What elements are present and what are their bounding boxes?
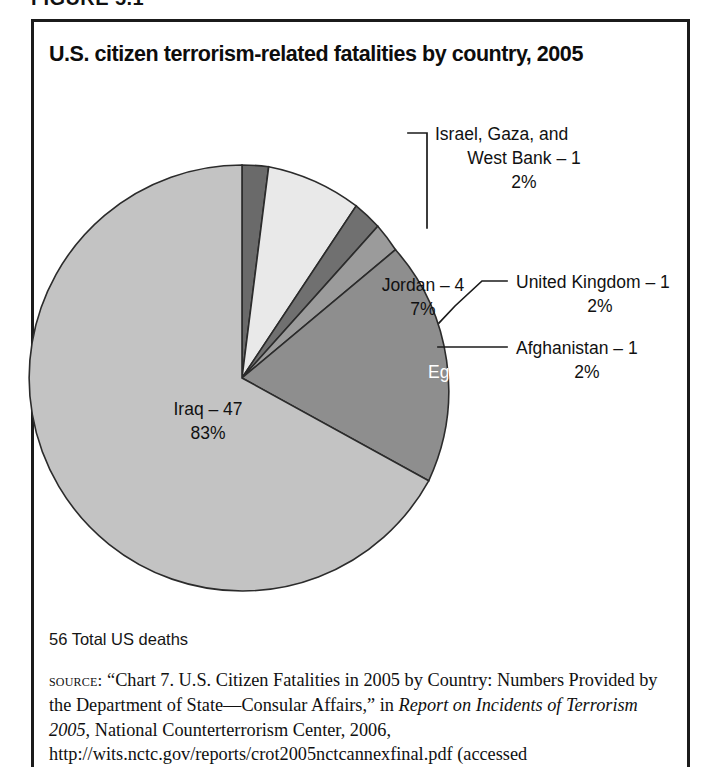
source-note: source: “Chart 7. U.S. Citizen Fatalitie… (49, 668, 666, 767)
label-egypt-percent: 4% (452, 386, 477, 406)
label-united-kingdom-name: United Kingdom – 1 (516, 272, 670, 292)
label-iraq-name: Iraq – 47 (173, 399, 242, 419)
source-label: source: (49, 671, 102, 690)
label-israel-percent: 2% (511, 172, 536, 192)
label-afghanistan-name: Afghanistan – 1 (516, 338, 638, 358)
label-jordan-percent: 7% (410, 299, 435, 319)
label-united-kingdom-percent: 2% (587, 296, 612, 316)
label-afghanistan-percent: 2% (574, 362, 599, 382)
label-israel-line2: West Bank – 1 (467, 148, 581, 168)
label-iraq-percent: 83% (190, 423, 225, 443)
leader-line-israel (408, 133, 427, 228)
source-text-part2: , National Counterterrorism Center, 2006… (49, 720, 527, 764)
label-egypt-name: Egypt – 2 (428, 362, 502, 382)
label-israel-line1: Israel, Gaza, and (435, 124, 568, 144)
pie-chart: Israel, Gaza, and West Bank – 1 2% Unite… (0, 0, 706, 767)
total-deaths-note: 56 Total US deaths (49, 630, 188, 649)
label-jordan-name: Jordan – 4 (382, 275, 465, 295)
